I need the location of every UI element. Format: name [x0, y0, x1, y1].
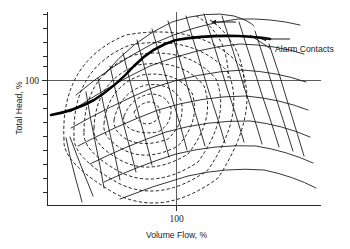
- upper-right-dashed-arcs: [196, 16, 244, 88]
- low-flow-stall-curve: [70, 137, 93, 196]
- x-axis-tick-label-100: 100: [169, 214, 184, 224]
- alarm-contacts-label: Alarm Contacts: [275, 44, 334, 54]
- curve-families: [51, 14, 316, 203]
- efficiency-island-6: [84, 53, 221, 179]
- efficiency-islands: [64, 32, 247, 203]
- y-axis-tick-label-100: 100: [25, 76, 40, 86]
- efficiency-island-2: [124, 94, 172, 133]
- x-axis-title: Volume Flow, %: [146, 230, 207, 240]
- vane-position-lines: [66, 14, 304, 202]
- performance-map-figure: 100 100 Volume Flow, % Total Head, % Ala…: [0, 0, 350, 249]
- y-axis-title: Total Head, %: [14, 81, 24, 135]
- compressor-performance-chart: 100 100 Volume Flow, % Total Head, % Ala…: [0, 0, 350, 249]
- surge-line-arrow: [261, 37, 290, 41]
- y-axis-ticks: [42, 15, 48, 193]
- efficiency-island-5: [94, 64, 208, 167]
